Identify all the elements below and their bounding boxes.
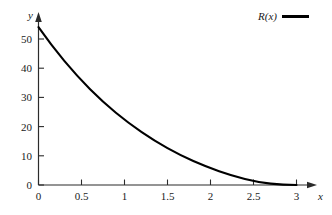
x-axis-title: x — [318, 191, 323, 202]
chart-legend: R(x) — [258, 11, 309, 22]
y-tick-label-50: 50 — [14, 34, 32, 45]
y-axis — [35, 12, 42, 185]
y-tick-label-40: 40 — [14, 63, 32, 74]
y-tick-label-10: 10 — [14, 150, 32, 161]
y-tick-label-30: 30 — [14, 92, 32, 103]
plot-area — [0, 0, 332, 215]
x-tick-label-0: 0 — [36, 191, 42, 202]
y-axis-title: y — [28, 10, 33, 21]
x-axis-arrow — [307, 182, 317, 188]
y-tick-marks — [39, 39, 45, 185]
curve-R — [39, 27, 297, 185]
chart-figure: 0 10 20 30 40 50 0 0.5 1 1.5 2 2.5 3 y x… — [0, 0, 332, 215]
legend-line-swatch — [282, 15, 309, 18]
x-tick-label-2: 2 — [208, 191, 214, 202]
x-tick-label-2-5: 2.5 — [247, 191, 261, 202]
y-tick-label-0: 0 — [14, 180, 32, 191]
x-tick-label-3: 3 — [294, 191, 300, 202]
legend-item-label: R(x) — [258, 11, 277, 22]
y-axis-arrow — [35, 12, 42, 22]
x-tick-label-0-5: 0.5 — [75, 191, 89, 202]
x-tick-label-1: 1 — [122, 191, 128, 202]
x-tick-label-1-5: 1.5 — [161, 191, 175, 202]
y-tick-label-20: 20 — [14, 121, 32, 132]
